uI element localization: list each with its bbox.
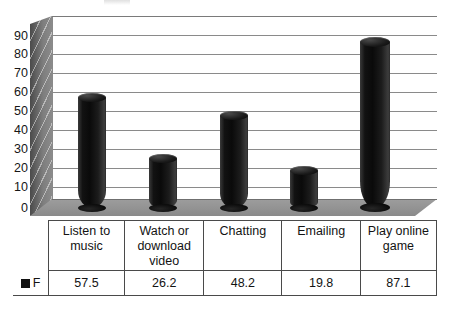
y-tick-label: 0 bbox=[2, 202, 28, 215]
chart-back-wall bbox=[30, 16, 52, 216]
y-axis: 90 80 70 60 50 40 30 20 10 0 bbox=[0, 0, 28, 232]
y-tick-label: 10 bbox=[2, 181, 28, 194]
y-tick-label: 80 bbox=[2, 48, 28, 61]
y-tick-label: 90 bbox=[2, 30, 28, 43]
chart-plot-area: 90 80 70 60 50 40 30 20 10 0 bbox=[0, 0, 449, 232]
bar-cylinder bbox=[220, 115, 248, 208]
black-square-marker-icon bbox=[21, 279, 30, 288]
cylinder-body bbox=[290, 170, 318, 208]
y-tick-label: 30 bbox=[2, 143, 28, 156]
y-tick-label: 20 bbox=[2, 162, 28, 175]
cylinder-base-ellipse bbox=[290, 204, 318, 212]
value-cell: 26.2 bbox=[125, 271, 204, 296]
value-cell: 57.5 bbox=[48, 271, 124, 296]
chart-screenshot: 90 80 70 60 50 40 30 20 10 0 bbox=[0, 0, 449, 313]
y-tick-label: 50 bbox=[2, 105, 28, 118]
legend-series-label: F bbox=[33, 276, 41, 291]
category-header-cell: Emailing bbox=[282, 221, 360, 271]
bar-cylinder bbox=[149, 158, 177, 208]
value-cell: 48.2 bbox=[204, 271, 282, 296]
cylinder-base-ellipse bbox=[78, 204, 106, 212]
cylinder-base-ellipse bbox=[149, 204, 177, 212]
bar-cylinder bbox=[360, 41, 390, 208]
cylinder-body bbox=[78, 97, 106, 208]
value-cell: 87.1 bbox=[360, 271, 436, 296]
cylinder-body bbox=[149, 158, 177, 208]
cylinder-top-ellipse bbox=[149, 154, 177, 163]
value-cell: 19.8 bbox=[282, 271, 360, 296]
table-row-values: F 57.5 26.2 48.2 19.8 87.1 bbox=[13, 271, 437, 296]
bar-cylinder bbox=[78, 97, 106, 208]
category-header-cell: Listen to music bbox=[48, 221, 124, 271]
category-header-cell: Chatting bbox=[204, 221, 282, 271]
y-tick-label: 70 bbox=[2, 67, 28, 80]
cylinder-body bbox=[220, 115, 248, 208]
y-tick-label: 40 bbox=[2, 124, 28, 137]
legend-cell: F bbox=[13, 271, 48, 296]
value-axis-line bbox=[52, 17, 53, 200]
y-tick-label: 60 bbox=[2, 86, 28, 99]
cylinder-body bbox=[360, 41, 390, 208]
chart-data-table: Listen to music Watch or download video … bbox=[13, 220, 437, 296]
table-row-categories: Listen to music Watch or download video … bbox=[13, 221, 437, 271]
gridline bbox=[52, 35, 437, 36]
cylinder-base-ellipse bbox=[220, 204, 248, 212]
cylinder-top-ellipse bbox=[290, 166, 318, 175]
cylinder-top-ellipse bbox=[360, 37, 390, 47]
legend-spacer-cell bbox=[13, 221, 48, 271]
category-header-cell: Play online game bbox=[360, 221, 436, 271]
bar-cylinder bbox=[290, 170, 318, 208]
category-header-cell: Watch or download video bbox=[125, 221, 204, 271]
